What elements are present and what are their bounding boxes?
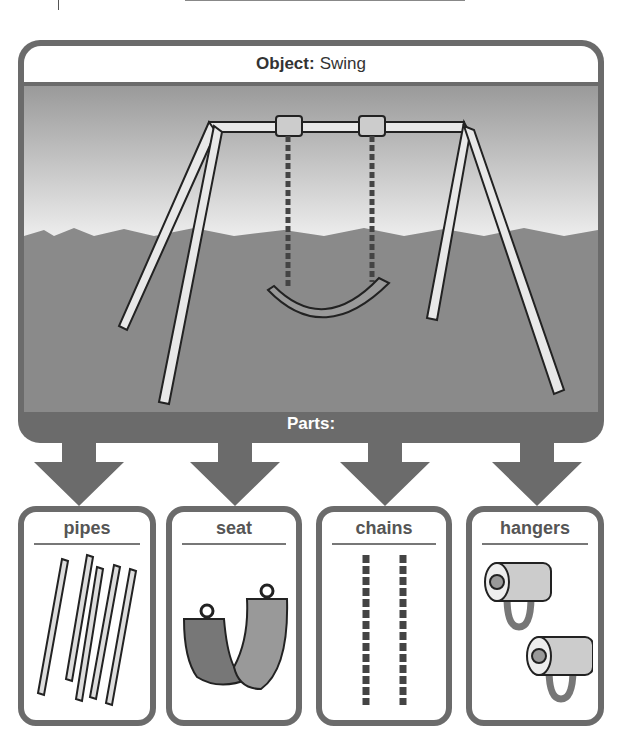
arrow-down-icon [190, 440, 280, 506]
hangers-icon [477, 549, 593, 709]
pipes-icon [32, 549, 142, 709]
part-title: pipes [24, 518, 150, 539]
margin-mark [58, 0, 59, 10]
parts-label: Parts: [18, 414, 604, 434]
answer-line [185, 0, 465, 1]
part-title: seat [172, 518, 296, 539]
chains-icon [329, 549, 439, 709]
part-card-chains: chains [316, 506, 452, 726]
object-header: Object: Swing [24, 46, 598, 82]
object-label: Object: [256, 54, 315, 74]
arrow-down-icon [492, 440, 582, 506]
seat-icon [179, 549, 289, 709]
part-card-hangers: hangers [466, 506, 604, 726]
arrow-down-icon [340, 440, 430, 506]
swing-illustration [24, 86, 598, 412]
part-card-pipes: pipes [18, 506, 156, 726]
object-value: Swing [320, 54, 366, 74]
divider [34, 543, 140, 545]
part-title: chains [322, 518, 446, 539]
object-frame: Object: Swing [18, 40, 604, 443]
divider [332, 543, 436, 545]
divider [182, 543, 286, 545]
divider [482, 543, 588, 545]
arrow-down-icon [34, 440, 124, 506]
part-title: hangers [472, 518, 598, 539]
part-card-seat: seat [166, 506, 302, 726]
